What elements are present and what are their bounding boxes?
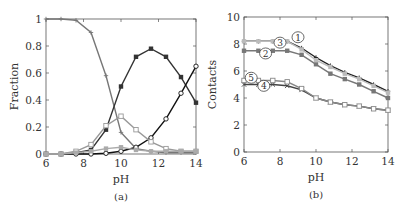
- y-tick-label: 0.2: [25, 121, 42, 133]
- x-tick-label: 12: [152, 157, 165, 169]
- open-square-marker: [328, 100, 332, 104]
- square-marker: [149, 149, 153, 153]
- square-marker: [179, 149, 183, 153]
- square-marker: [242, 39, 246, 43]
- square-marker: [386, 90, 390, 94]
- x-tick-label: 14: [189, 157, 203, 169]
- square-marker: [59, 152, 63, 156]
- y-axis-label: Fraction: [8, 63, 21, 110]
- svg-text:5: 5: [248, 73, 254, 83]
- open-square-marker: [104, 123, 108, 127]
- plus-marker: [44, 17, 48, 21]
- x-axis-label: pH: [308, 171, 325, 184]
- square-marker: [386, 96, 390, 100]
- square-marker: [164, 149, 168, 153]
- series-label-1: 1: [292, 32, 304, 43]
- open-circle-marker: [104, 151, 108, 155]
- y-axis-label: Contacts: [206, 59, 219, 109]
- svg-text:1: 1: [295, 33, 301, 43]
- square-marker: [371, 84, 375, 88]
- square-marker: [256, 39, 260, 43]
- square-marker: [371, 89, 375, 93]
- series-label-4: 4: [258, 80, 270, 91]
- series-label-5: 5: [245, 72, 257, 83]
- filled-square-marker: [149, 47, 153, 51]
- series-filled-square: [44, 47, 198, 157]
- square-marker: [119, 145, 123, 149]
- x-axis-label: pH: [113, 173, 130, 186]
- open-circle-marker: [164, 117, 168, 121]
- open-circle-marker: [194, 64, 198, 68]
- open-circle-marker: [119, 149, 123, 153]
- y-tick-label: 0.6: [25, 67, 42, 79]
- x-tick-label: 8: [277, 155, 284, 167]
- x-tick-label: 12: [345, 155, 358, 167]
- panel-label: (b): [309, 189, 323, 200]
- open-square-marker: [357, 104, 361, 108]
- square-marker: [299, 53, 303, 57]
- open-square-marker: [386, 108, 390, 112]
- x-tick-label: 6: [43, 157, 50, 169]
- x-tick-label: 14: [381, 155, 395, 167]
- open-square-marker: [299, 86, 303, 90]
- y-tick-label: 2: [233, 119, 240, 131]
- square-marker: [242, 49, 246, 53]
- open-square-marker: [89, 142, 93, 146]
- filled-square-marker: [119, 84, 123, 88]
- y-tick-label: 4: [233, 92, 240, 104]
- open-square-marker: [314, 96, 318, 100]
- square-marker: [357, 82, 361, 86]
- series-label-2: 2: [260, 48, 272, 59]
- y-tick-label: 10: [227, 11, 240, 23]
- x-tick-label: 10: [309, 155, 322, 167]
- square-marker: [44, 152, 48, 156]
- svg-text:2: 2: [263, 49, 269, 59]
- y-tick-label: 6: [233, 65, 240, 77]
- filled-square-marker: [164, 55, 168, 59]
- square-marker: [194, 149, 198, 153]
- plus-marker: [104, 74, 108, 78]
- square-marker: [343, 72, 347, 76]
- filled-square-marker: [134, 55, 138, 59]
- square-marker: [314, 62, 318, 66]
- panel-b-contacts-vs-ph: 681012140246810pHContacts(b)13254: [206, 11, 395, 201]
- square-marker: [134, 148, 138, 152]
- x-tick-label: 10: [114, 157, 127, 169]
- series-label-3: 3: [274, 37, 286, 48]
- figure: 6810121400.20.40.60.81pHFraction(a) 6810…: [0, 0, 409, 212]
- square-marker: [328, 65, 332, 69]
- y-tick-label: 0.8: [25, 40, 42, 52]
- square-marker: [357, 77, 361, 81]
- open-square-marker: [119, 114, 123, 118]
- x-tick-label: 6: [241, 155, 248, 167]
- svg-text:3: 3: [277, 38, 283, 48]
- open-square-marker: [285, 80, 289, 84]
- open-square-marker: [343, 103, 347, 107]
- square-marker: [74, 150, 78, 154]
- open-square-marker: [149, 140, 153, 144]
- y-tick-label: 0: [233, 146, 240, 158]
- y-tick-label: 0: [35, 148, 42, 160]
- open-square-marker: [134, 128, 138, 132]
- open-circle-marker: [179, 91, 183, 95]
- svg-text:4: 4: [261, 81, 267, 91]
- square-marker: [89, 149, 93, 153]
- x-tick-label: 8: [80, 157, 87, 169]
- y-tick-label: 8: [233, 38, 240, 50]
- panel-a-fraction-vs-ph: 6810121400.20.40.60.81pHFraction(a): [8, 13, 203, 203]
- square-marker: [285, 49, 289, 53]
- square-marker: [104, 146, 108, 150]
- square-marker: [314, 58, 318, 62]
- y-tick-label: 0.4: [25, 94, 42, 106]
- square-marker: [343, 77, 347, 81]
- series-open-circle: [44, 64, 198, 156]
- plus-marker: [59, 17, 63, 21]
- square-marker: [328, 72, 332, 76]
- open-square-marker: [371, 107, 375, 111]
- filled-square-marker: [194, 101, 198, 105]
- open-square-marker: [271, 78, 275, 82]
- square-marker: [299, 47, 303, 51]
- panel-label: (a): [114, 191, 128, 202]
- y-tick-label: 1: [35, 13, 42, 25]
- filled-square-marker: [179, 75, 183, 79]
